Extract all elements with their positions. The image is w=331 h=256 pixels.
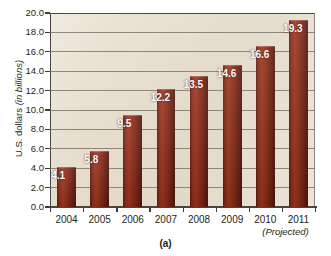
x-tick-mark (315, 207, 316, 212)
y-tick-label: 10.0 (5, 104, 44, 115)
y-tick-mark (45, 12, 50, 13)
x-tick-mark (116, 207, 117, 212)
y-tick-label: 4.0 (5, 162, 44, 173)
y-tick-mark (45, 168, 50, 169)
x-tick-label: 2006 (116, 214, 149, 225)
gridline (50, 71, 315, 72)
bar (256, 46, 275, 207)
x-tick-mark (83, 207, 84, 212)
y-tick-label: 20.0 (5, 7, 44, 18)
y-tick-label: 14.0 (5, 65, 44, 76)
y-tick-mark (45, 109, 50, 110)
x-tick-label: 2007 (149, 214, 182, 225)
x-tick-label: 2008 (183, 214, 216, 225)
x-tick-mark (50, 207, 51, 212)
bar (223, 65, 242, 207)
x-tick-label: 2011 (282, 214, 315, 225)
x-tick-mark (282, 207, 283, 212)
y-tick-label: 2.0 (5, 182, 44, 193)
y-tick-mark (45, 32, 50, 33)
x-tick-mark (216, 207, 217, 212)
x-tick-label: 2010 (249, 214, 282, 225)
projected-note: (Projected) (243, 226, 328, 237)
x-tick-mark (183, 207, 184, 212)
bar-value-label: 9.5 (117, 118, 131, 129)
y-tick-mark (45, 51, 50, 52)
x-tick-mark (149, 207, 150, 212)
gridline (50, 129, 315, 130)
y-tick-label: 16.0 (5, 46, 44, 57)
bar-value-label: 16.6 (250, 49, 269, 60)
y-tick-label: 18.0 (5, 26, 44, 37)
y-tick-mark (45, 129, 50, 130)
y-tick-label: 0.0 (5, 201, 44, 212)
bar (190, 76, 209, 207)
y-tick-label: 8.0 (5, 123, 44, 134)
figure-caption: (a) (0, 238, 331, 249)
x-tick-mark (249, 207, 250, 212)
bar-value-label: 5.8 (84, 154, 98, 165)
x-tick-label: 2009 (216, 214, 249, 225)
bar-value-label: 13.5 (184, 79, 203, 90)
y-tick-mark (45, 90, 50, 91)
y-tick-label: 12.0 (5, 85, 44, 96)
y-tick-mark (45, 71, 50, 72)
gridline (50, 110, 315, 111)
y-tick-mark (45, 187, 50, 188)
bar-chart-figure: U.S. dollars (in billions) 0.02.04.06.08… (0, 0, 331, 256)
y-tick-mark (45, 148, 50, 149)
bar (157, 89, 176, 207)
gridline (50, 51, 315, 52)
bar (289, 20, 308, 207)
gridline (50, 148, 315, 149)
bar-value-label: 12.2 (151, 92, 170, 103)
x-tick-label: 2005 (83, 214, 116, 225)
bar-value-label: 19.3 (283, 23, 302, 34)
x-tick-label: 2004 (50, 214, 83, 225)
chart-title-cutoff (0, 0, 331, 1)
gridline (50, 32, 315, 33)
bar-value-label: 14.6 (217, 68, 236, 79)
gridline (50, 90, 315, 91)
bar-value-label: 4.1 (51, 170, 65, 181)
y-tick-label: 6.0 (5, 143, 44, 154)
